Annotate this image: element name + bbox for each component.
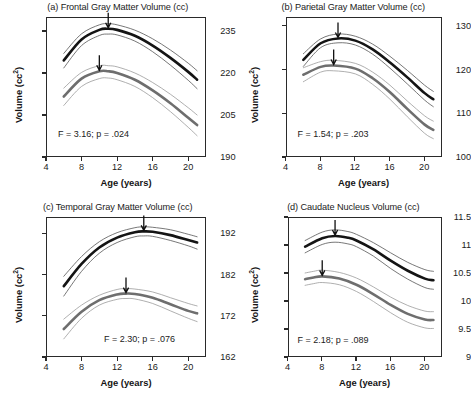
panel-d-plot: 99.51010.51111.548121620Volume (cc2)Age … <box>236 200 471 400</box>
confidence-band-upper-female <box>303 60 433 121</box>
peak-arrow-male <box>332 220 337 235</box>
curve-male <box>64 29 197 80</box>
panel-a-plot: 19020522023548121620Volume (cc2)Age (yea… <box>0 0 236 200</box>
peak-arrow-female <box>123 278 128 293</box>
confidence-band-lower-female <box>64 78 197 136</box>
peak-arrow-female <box>331 50 336 65</box>
peak-arrow-female <box>97 55 102 70</box>
curve-male <box>64 231 197 286</box>
panel-a: (a) Frontal Gray Matter Volume (cc) 1902… <box>0 0 236 200</box>
panel-d: (d) Caudate Nucleus Volume (cc) 99.51010… <box>236 200 471 400</box>
panel-b-plot: 10011012013048121620Volume (cc2)Age (yea… <box>236 0 471 200</box>
figure-container: (a) Frontal Gray Matter Volume (cc) 1902… <box>0 0 471 400</box>
confidence-band-upper-male <box>305 230 433 271</box>
peak-arrow-male <box>106 13 111 28</box>
confidence-band-lower-male <box>64 236 197 296</box>
peak-arrow-male <box>335 22 340 37</box>
peak-arrow-female <box>319 260 324 275</box>
panel-b: (b) Parietal Gray Matter Volume (cc) 100… <box>236 0 471 200</box>
confidence-band-lower-female <box>64 298 197 338</box>
peak-arrow-male <box>141 215 146 230</box>
panel-c-plot: 16217218219248121620Volume (cc2)Age (yea… <box>0 200 236 400</box>
confidence-band-lower-female <box>305 282 433 328</box>
curve-female <box>303 65 433 129</box>
curve-layer <box>0 0 235 200</box>
curve-layer <box>0 200 235 400</box>
curve-male <box>305 236 433 280</box>
panel-c: (c) Temporal Gray Matter Volume (cc) 162… <box>0 200 236 400</box>
confidence-band-lower-female <box>303 71 433 139</box>
curve-layer <box>236 0 471 200</box>
curve-layer <box>236 200 471 400</box>
